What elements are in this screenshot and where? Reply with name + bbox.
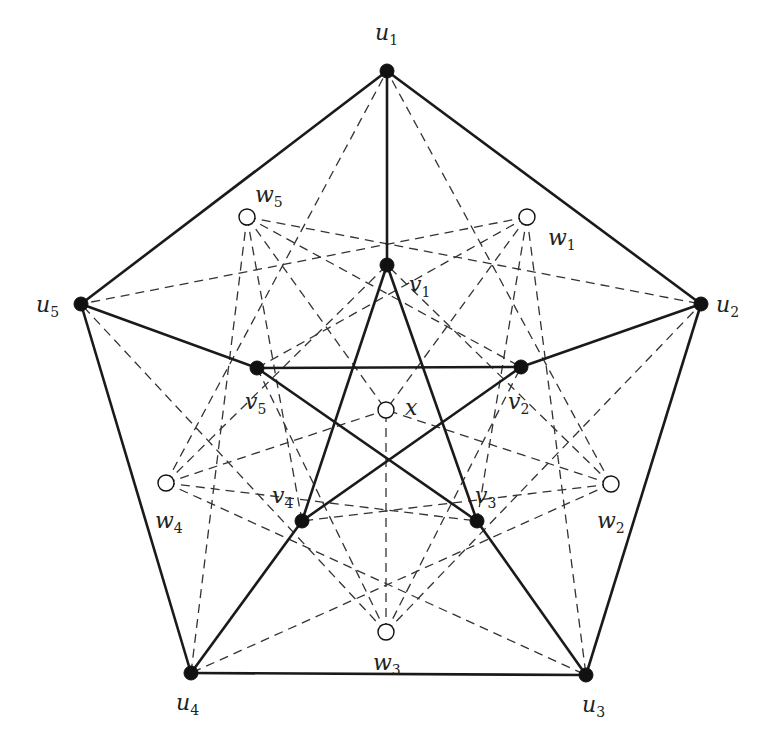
label-v4: v4 [272,483,293,511]
dashed-edge-w4-x [166,410,386,483]
label-u2: u2 [716,292,739,320]
label-w4: w4 [155,508,183,536]
label-w1: w1 [548,225,576,253]
dashed-edge-w5-u4 [191,217,247,673]
dashed-edge-w2-x [386,410,611,484]
dashed-edge-w3-u5 [81,304,386,632]
solid-edge-u4-v4 [191,521,302,673]
solid-edge-u5-v5 [81,304,257,368]
label-w2: w2 [597,508,625,536]
solid-edge-u2-u3 [586,304,701,675]
vertex-w3 [378,624,394,640]
vertex-u1 [380,64,394,78]
solid-edge-u4-u5 [81,304,191,673]
solid-edges [81,71,701,675]
label-w5: w5 [255,182,283,210]
label-v5: v5 [245,389,266,417]
label-u4: u4 [176,690,199,718]
dashed-edge-w1-u5 [81,217,527,304]
vertex-x [378,402,394,418]
label-v1: v1 [409,272,430,300]
dashed-edge-w2-u4 [191,484,611,673]
dashed-edge-w4-u3 [166,483,586,675]
vertex-u2 [694,297,708,311]
dashed-edge-w1-x [386,217,527,410]
dashed-edge-w1-v5 [257,217,527,368]
vertex-w1 [519,209,535,225]
vertex-w5 [239,209,255,225]
vertex-v2 [514,360,528,374]
label-u5: u5 [36,292,59,320]
vertex-w2 [603,476,619,492]
vertex-v5 [250,361,264,375]
dashed-edge-w5-x [247,217,386,410]
label-u3: u3 [582,692,605,720]
label-w3: w3 [373,650,401,678]
label-v2: v2 [508,389,529,417]
dashed-edge-w4-v1 [166,265,387,483]
label-v3: v3 [475,483,496,511]
label-u1: u1 [375,20,398,48]
vertex-v3 [470,514,484,528]
dashed-edge-w3-u2 [386,304,701,632]
dashed-edge-w5-v2 [247,217,521,367]
vertex-u4 [184,666,198,680]
vertex-u5 [74,297,88,311]
solid-edge-v5-v2 [257,367,521,368]
label-x: x [405,395,418,420]
dashed-edges [81,71,701,675]
graph-diagram: u1u2u3u4u5v1v2v3v4v5w1w2w3w4w5x [0,0,780,752]
solid-edge-u2-v2 [521,304,701,367]
solid-edge-u3-v3 [477,521,586,675]
vertex-v4 [295,514,309,528]
vertex-u3 [579,668,593,682]
vertex-w4 [158,475,174,491]
vertex-v1 [380,258,394,272]
